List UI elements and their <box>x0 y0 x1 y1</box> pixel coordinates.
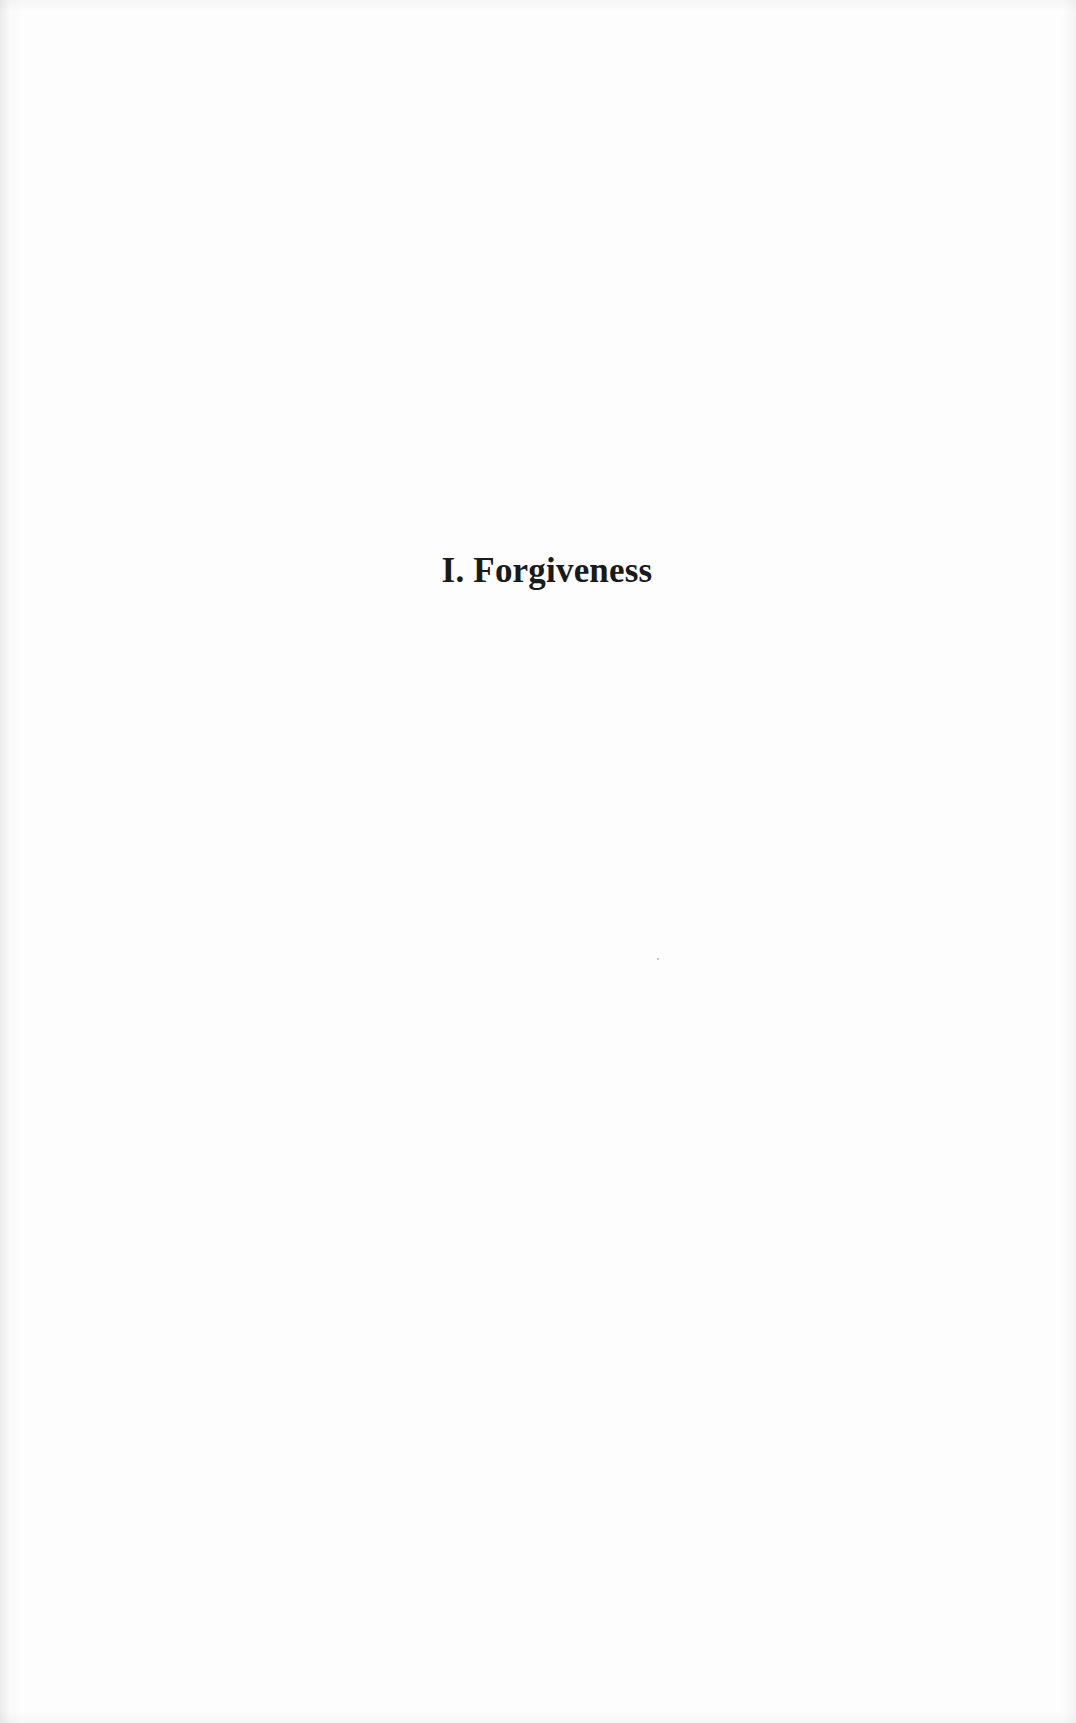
part-title: I. Forgiveness <box>0 551 1076 591</box>
book-page: I. Forgiveness <box>0 0 1076 1723</box>
scan-speck <box>657 958 659 960</box>
